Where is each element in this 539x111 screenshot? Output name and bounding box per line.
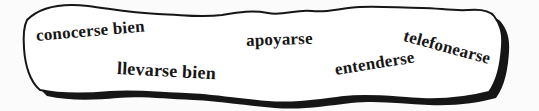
word-apoyarse: apoyarse (246, 30, 313, 49)
word-llevarse-bien: llevarse bien (117, 59, 217, 82)
banner-paper-shape (24, 5, 503, 102)
vocabulary-banner: conocerse bien llevarse bien apoyarse en… (0, 0, 539, 111)
